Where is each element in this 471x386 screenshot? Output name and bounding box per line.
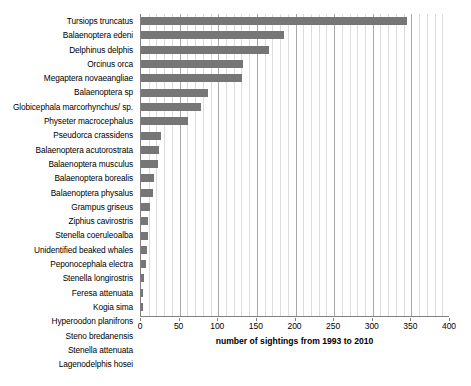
category-label: Globicephala marcorhynchus/ sp. <box>0 100 137 114</box>
bar <box>141 303 143 311</box>
bar-row <box>141 228 449 242</box>
category-label: Delphinus delphis <box>0 43 137 57</box>
category-label: Megaptera novaeangliae <box>0 71 137 85</box>
bar <box>141 246 147 254</box>
bar-row <box>141 257 449 271</box>
bar-row <box>141 128 449 142</box>
category-label: Grampus griseus <box>0 200 137 214</box>
x-tick-label: 400 <box>442 321 456 331</box>
bar <box>141 89 208 97</box>
bar <box>141 274 144 282</box>
x-tick-label: 50 <box>174 321 183 331</box>
category-label: Kogia sima <box>0 300 137 314</box>
category-label: Steno bredanensis <box>0 329 137 343</box>
category-label: Pseudorca crassidens <box>0 128 137 142</box>
bar-series <box>141 14 449 316</box>
category-label: Balaenoptera borealis <box>0 171 137 185</box>
bar-row <box>141 114 449 128</box>
bar-row <box>141 157 449 171</box>
bar-row <box>141 186 449 200</box>
bar-row <box>141 71 449 85</box>
category-label: Balaenoptera edeni <box>0 28 137 42</box>
category-label: Physeter macrocephalus <box>0 114 137 128</box>
bar <box>141 103 201 111</box>
bar-row <box>141 286 449 300</box>
x-tick-label: 300 <box>365 321 379 331</box>
bar <box>141 217 148 225</box>
category-label: Hyperoodon planifrons <box>0 314 137 328</box>
x-tick-label: 250 <box>326 321 340 331</box>
plot-area <box>140 14 449 317</box>
bar <box>141 46 269 54</box>
category-label: Lagenodelphis hosei <box>0 357 137 371</box>
bar <box>141 74 242 82</box>
category-label: Orcinus orca <box>0 57 137 71</box>
category-label: Ziphius cavirostris <box>0 214 137 228</box>
bar <box>141 31 284 39</box>
category-label-column: Tursiops truncatusBalaenoptera edeniDelp… <box>0 14 137 371</box>
category-label: Balaenoptera physalus <box>0 186 137 200</box>
bar-row <box>141 14 449 28</box>
bar <box>141 60 243 68</box>
category-label: Feresa attenuata <box>0 286 137 300</box>
bar <box>141 189 153 197</box>
bar-row <box>141 271 449 285</box>
bar <box>141 203 150 211</box>
x-tick-label: 200 <box>287 321 301 331</box>
category-label: Stenella longirostris <box>0 271 137 285</box>
bar <box>141 174 154 182</box>
bar-row <box>141 300 449 314</box>
bar <box>141 117 188 125</box>
category-label: Balaenoptera musculus <box>0 157 137 171</box>
category-label: Balaenoptera acutorostrata <box>0 143 137 157</box>
bar-row <box>141 100 449 114</box>
x-tick-label: 350 <box>403 321 417 331</box>
bar-row <box>141 200 449 214</box>
category-label: Stenella attenuata <box>0 343 137 357</box>
bar <box>141 132 161 140</box>
x-axis: 050100150200250300350400 <box>140 318 449 334</box>
bar <box>141 17 407 25</box>
category-label: Balaenoptera sp <box>0 85 137 99</box>
x-tick-label: 100 <box>210 321 224 331</box>
sightings-bar-chart: Tursiops truncatusBalaenoptera edeniDelp… <box>0 0 471 386</box>
x-tick-label: 150 <box>249 321 263 331</box>
bar-row <box>141 85 449 99</box>
x-axis-title: number of sightings from 1993 to 2010 <box>140 336 449 346</box>
category-label: Peponocephala electra <box>0 257 137 271</box>
category-label: Unidentified beaked whales <box>0 243 137 257</box>
bar <box>141 160 158 168</box>
category-label: Tursiops truncatus <box>0 14 137 28</box>
bar-row <box>141 28 449 42</box>
bar-row <box>141 214 449 228</box>
x-tick-label: 0 <box>138 321 143 331</box>
bar-row <box>141 314 449 317</box>
category-label: Stenella coeruleoalba <box>0 228 137 242</box>
bar-row <box>141 43 449 57</box>
bar-row <box>141 57 449 71</box>
bar <box>141 146 159 154</box>
bar <box>141 260 146 268</box>
bar-row <box>141 171 449 185</box>
bar <box>141 289 143 297</box>
bar <box>141 232 148 240</box>
bar-row <box>141 143 449 157</box>
bar-row <box>141 243 449 257</box>
